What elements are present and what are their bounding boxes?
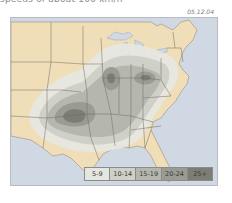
map-date: 05.12.04	[187, 8, 214, 15]
legend-item-5-9: 5-9	[85, 168, 109, 180]
legend-item-20-24: 20-24	[161, 168, 187, 180]
legend: 5-9 10-14 15-19 20-24 25+	[84, 167, 213, 181]
caption-text: speeds of about 100 km/h	[0, 0, 123, 4]
legend-item-15-19: 15-19	[135, 168, 161, 180]
map-frame: 5-9 10-14 15-19 20-24 25+	[10, 17, 218, 186]
legend-item-10-14: 10-14	[109, 168, 135, 180]
legend-item-25-plus: 25+	[187, 168, 212, 180]
us-map	[11, 18, 218, 186]
